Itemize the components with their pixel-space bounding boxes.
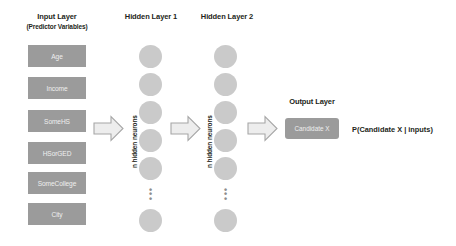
hidden1-neuron-5 bbox=[139, 157, 162, 180]
input-layer-title: Input Layer bbox=[28, 12, 86, 21]
hidden2-neuron-1 bbox=[214, 45, 237, 68]
hidden-layer-1-title: Hidden Layer 1 bbox=[110, 12, 192, 21]
hidden2-neuron-n bbox=[214, 209, 237, 232]
hidden1-neuron-n bbox=[139, 209, 162, 232]
hidden2-neuron-4 bbox=[214, 129, 237, 152]
hidden-layer-1-neuron-count-label: n hidden neurons bbox=[131, 115, 138, 168]
input-node-income[interactable]: Income bbox=[28, 77, 86, 99]
input-node-somehs[interactable]: SomeHS bbox=[28, 110, 86, 132]
hidden1-neuron-1 bbox=[139, 45, 162, 68]
input-node-age[interactable]: Age bbox=[28, 45, 86, 67]
input-node-somecollege[interactable]: SomeCollege bbox=[28, 172, 86, 194]
input-node-hsorged[interactable]: HSorGED bbox=[28, 142, 86, 164]
hidden2-ellipsis: • • • bbox=[214, 188, 237, 201]
arrow-input-to-hidden1 bbox=[93, 115, 124, 142]
hidden1-neuron-2 bbox=[139, 73, 162, 96]
output-node-candidate-x[interactable]: Candidate X bbox=[285, 118, 339, 139]
hidden1-ellipsis-dot-3: • bbox=[139, 197, 162, 201]
output-layer-title: Output Layer bbox=[282, 97, 342, 106]
output-probability-formula: P(Candidate X | inputs) bbox=[352, 125, 433, 134]
arrow-hidden1-to-hidden2 bbox=[170, 115, 201, 142]
hidden2-neuron-2 bbox=[214, 73, 237, 96]
hidden2-ellipsis-dot-3: • bbox=[214, 197, 237, 201]
hidden-layer-2-title: Hidden Layer 2 bbox=[186, 12, 268, 21]
hidden1-neuron-4 bbox=[139, 129, 162, 152]
input-node-city[interactable]: City bbox=[28, 203, 86, 225]
neural-network-diagram: Input Layer (Predictor Variables) Age In… bbox=[0, 0, 456, 246]
input-layer-subtitle: (Predictor Variables) bbox=[10, 23, 104, 30]
arrow-hidden2-to-output bbox=[247, 115, 278, 142]
hidden2-neuron-5 bbox=[214, 157, 237, 180]
hidden1-neuron-3 bbox=[139, 101, 162, 124]
hidden1-ellipsis: • • • bbox=[139, 188, 162, 201]
hidden-layer-2-neuron-count-label: n hidden neurons bbox=[206, 115, 213, 168]
hidden2-neuron-3 bbox=[214, 101, 237, 124]
